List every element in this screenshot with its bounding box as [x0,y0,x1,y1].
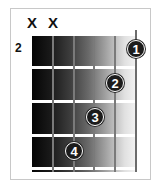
finger-2-dot: 2 [106,74,124,92]
fret-line-4 [32,167,137,170]
finger-1-dot: 1 [127,40,145,58]
start-fret-label: 2 [15,41,22,55]
finger-4-dot: 4 [65,142,83,160]
fret-line-1 [32,66,137,69]
fret-line-2 [32,100,137,103]
finger-3-dot: 3 [86,108,104,126]
fretboard [32,36,137,172]
fret-line-3 [32,134,137,137]
string-3 [93,36,95,172]
string-5 [52,36,54,172]
muted-string-6-icon: X [25,15,39,30]
string-2 [114,36,116,172]
muted-string-5-icon: X [46,15,60,30]
